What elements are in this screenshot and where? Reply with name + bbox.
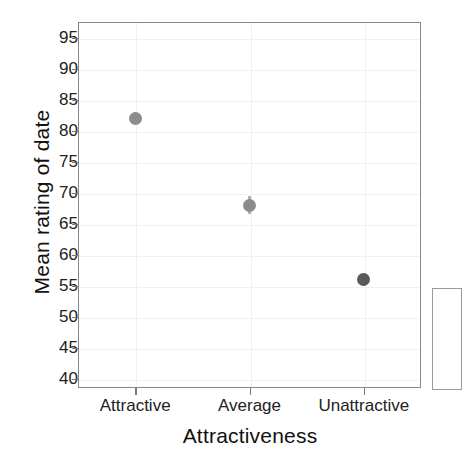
data-point[interactable] <box>357 273 370 286</box>
x-axis-tick-label: Average <box>185 396 315 416</box>
data-layer <box>78 22 421 388</box>
x-axis-tick-label: Attractive <box>70 396 200 416</box>
x-axis-tick-mark <box>250 388 252 395</box>
x-axis-tick-marks <box>78 388 421 396</box>
x-axis-tick-label: Unattractive <box>299 396 429 416</box>
legend-box-cropped <box>432 288 462 390</box>
x-axis-tick-mark <box>135 388 137 395</box>
y-axis-tick-labels: 959085807570656055504540 <box>0 22 78 388</box>
x-axis-tick-mark <box>364 388 366 395</box>
data-point[interactable] <box>243 199 256 212</box>
x-axis-tick-labels: AttractiveAverageUnattractive <box>78 396 421 422</box>
x-axis-title: Attractiveness <box>78 424 422 448</box>
data-point[interactable] <box>129 112 142 125</box>
